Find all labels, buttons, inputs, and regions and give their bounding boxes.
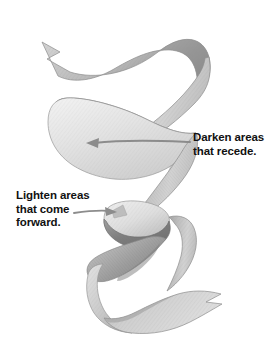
annotation-lighten-areas: Lighten areas that come forward. xyxy=(16,189,106,230)
ribbon-segment-top xyxy=(42,39,210,98)
illustration-canvas: Darken areas that recede. Lighten areas … xyxy=(0,0,277,355)
ribbon-drawing xyxy=(0,0,277,355)
ribbon-segment-mid-right xyxy=(167,216,196,291)
ribbon-segment-bottom-tail xyxy=(104,291,222,334)
annotation-darken-areas: Darken areas that recede. xyxy=(193,131,277,158)
